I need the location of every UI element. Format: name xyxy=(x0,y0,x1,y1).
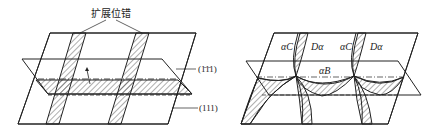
label-Dalpha-2: Dα xyxy=(369,41,383,52)
plane-label-lower: (111) xyxy=(199,103,218,113)
plane-main xyxy=(241,33,418,124)
diagram-canvas: 扩展位错 (1̄1̄1) (111) xyxy=(0,0,436,137)
left-figure xyxy=(18,20,198,124)
label-Dalpha-1: Dα xyxy=(310,41,324,52)
extended-dislocation-label: 扩展位错 xyxy=(91,7,131,19)
plane-label-upper: (1̄1̄1) xyxy=(198,64,217,74)
label-alphaB: αB xyxy=(319,65,330,76)
label-alphaC-1: αC xyxy=(281,41,293,52)
right-figure xyxy=(241,33,421,124)
label-alphaC-2: αC xyxy=(340,41,352,52)
